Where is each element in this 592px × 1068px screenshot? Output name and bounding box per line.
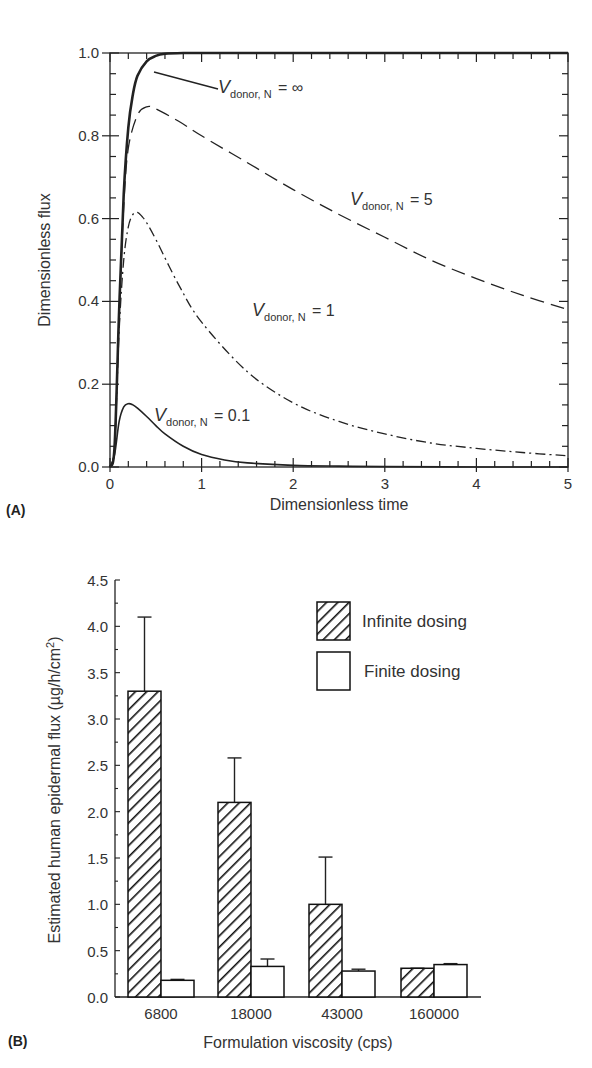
- bar-open: [251, 966, 284, 997]
- y-tick-label: 2.5: [87, 757, 108, 774]
- series-annotation: Vdonor, N = 1: [252, 300, 335, 323]
- y-tick-label: 0.5: [87, 943, 108, 960]
- y-tick-label: 0.0: [78, 458, 99, 475]
- y-tick-label: 4.5: [87, 572, 108, 589]
- series-annotation: Vdonor, N = 5: [350, 189, 433, 212]
- legend-label: Finite dosing: [364, 662, 460, 681]
- bar-open: [161, 980, 194, 997]
- series-annotation: Vdonor, N = ∞: [218, 77, 303, 100]
- series-line: [110, 404, 568, 467]
- chart-a-series: [110, 53, 568, 467]
- y-tick-label: 3.0: [87, 711, 108, 728]
- y-tick-label: 3.5: [87, 665, 108, 682]
- chart-b-xlabel: Formulation viscosity (cps): [203, 1034, 392, 1051]
- bar-hatched: [309, 904, 342, 997]
- x-tick-label: 43000: [321, 1005, 363, 1022]
- chart-a-ticks: 0123450.00.20.40.60.81.0: [78, 44, 572, 492]
- chart-b: 0.00.51.01.52.02.53.03.54.04.5 680018000…: [8, 572, 481, 1051]
- bar-group-18000: 18000: [218, 758, 284, 1022]
- y-tick-label: 1.5: [87, 850, 108, 867]
- chart-a-annotations: Vdonor, N = ∞Vdonor, N = 5Vdonor, N = 1V…: [154, 72, 433, 428]
- figure-canvas: 0123450.00.20.40.60.81.0 Vdonor, N = ∞Vd…: [0, 0, 592, 1068]
- x-tick-label: 5: [564, 475, 572, 492]
- x-tick-label: 18000: [230, 1005, 272, 1022]
- y-tick-label: 0.8: [78, 127, 99, 144]
- chart-b-ylabel: Estimated human epidermal flux (µg/h/cm2…: [44, 636, 63, 943]
- x-tick-label: 3: [381, 475, 389, 492]
- bar-group-160000: 160000: [401, 964, 467, 1022]
- x-tick-label: 0: [106, 475, 114, 492]
- legend-item-finite-dosing: Finite dosing: [317, 652, 460, 690]
- x-tick-label: 6800: [144, 1005, 177, 1022]
- y-tick-label: 2.0: [87, 804, 108, 821]
- x-tick-label: 4: [472, 475, 480, 492]
- bar-hatched: [218, 802, 251, 997]
- legend-label: Infinite dosing: [362, 612, 467, 631]
- chart-a-xlabel: Dimensionless time: [270, 496, 409, 513]
- bar-group-43000: 43000: [309, 857, 375, 1022]
- legend-item-infinite-dosing: Infinite dosing: [317, 602, 467, 640]
- chart-a: 0123450.00.20.40.60.81.0 Vdonor, N = ∞Vd…: [6, 44, 572, 518]
- legend-swatch-hatched: [317, 602, 350, 640]
- bar-hatched: [401, 968, 434, 997]
- y-tick-label: 4.0: [87, 618, 108, 635]
- bar-group-6800: 6800: [128, 617, 194, 1022]
- chart-a-ylabel: Dimensionless flux: [36, 193, 53, 326]
- chart-b-panel-label: (B): [8, 1033, 27, 1049]
- series-line: [110, 53, 568, 467]
- x-tick-label: 1: [197, 475, 205, 492]
- y-tick-label: 1.0: [78, 44, 99, 61]
- chart-b-legend: Infinite dosing Finite dosing: [317, 602, 467, 690]
- x-tick-label: 160000: [409, 1005, 459, 1022]
- x-tick-label: 2: [289, 475, 297, 492]
- series-annotation: Vdonor, N = 0.1: [154, 405, 250, 428]
- y-tick-label: 0.2: [78, 375, 99, 392]
- bar-open: [342, 971, 375, 997]
- y-tick-label: 1.0: [87, 896, 108, 913]
- series-line: [110, 212, 568, 467]
- y-tick-label: 0.4: [78, 292, 99, 309]
- bar-open: [434, 965, 467, 997]
- leader-line: [154, 72, 218, 89]
- y-tick-label: 0.0: [87, 989, 108, 1006]
- chart-a-panel-label: (A): [6, 502, 25, 518]
- bar-hatched: [128, 691, 161, 997]
- chart-a-plot-frame: [110, 53, 568, 467]
- legend-swatch-open: [317, 652, 350, 690]
- series-line: [110, 106, 568, 467]
- y-tick-label: 0.6: [78, 210, 99, 227]
- plot-border: [110, 53, 568, 467]
